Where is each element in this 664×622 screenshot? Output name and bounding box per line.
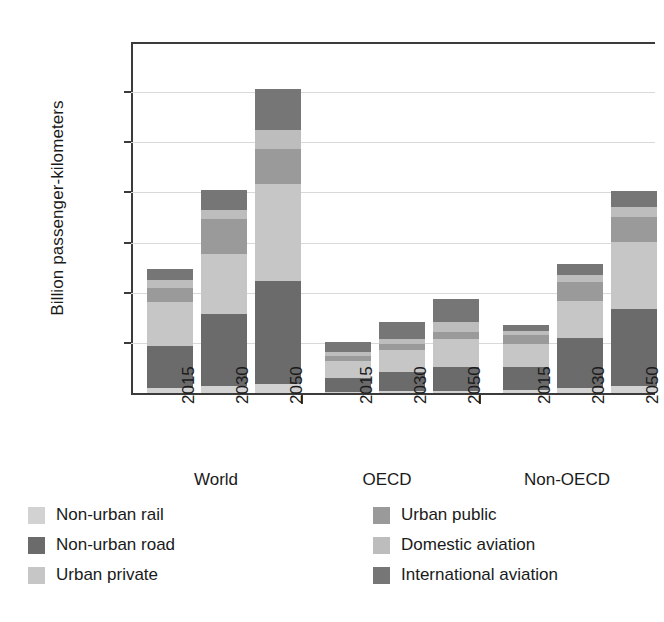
legend-item[interactable]: Urban private <box>28 560 175 590</box>
legend-column-left: Non-urban railNon-urban roadUrban privat… <box>28 500 175 590</box>
legend-swatch-icon <box>373 567 390 584</box>
bar-segment <box>611 217 657 242</box>
bar-segment <box>147 269 193 280</box>
x-tick-label-year: 2050 <box>465 340 485 404</box>
gridline <box>131 142 655 143</box>
bar-segment <box>255 89 301 130</box>
legend-swatch-icon <box>373 537 390 554</box>
legend-swatch-icon <box>28 507 45 524</box>
legend-item[interactable]: Non-urban road <box>28 530 175 560</box>
x-axis-group-label: Non-OECD <box>487 470 647 490</box>
bar-segment <box>201 210 247 219</box>
y-tick-mark <box>124 191 131 193</box>
y-axis-title: Billion passenger-kilometers <box>48 58 68 358</box>
gridline <box>131 92 655 93</box>
legend-label: Non-urban road <box>56 535 175 555</box>
bar-segment <box>557 282 603 301</box>
chart-figure: Billion passenger-kilometers 14000012000… <box>0 0 664 622</box>
legend-label: Non-urban rail <box>56 505 164 525</box>
x-tick-label-year: 2015 <box>535 340 555 404</box>
legend-label: Urban public <box>401 505 496 525</box>
x-tick-label-year: 2050 <box>287 340 307 404</box>
y-tick-mark <box>124 242 131 244</box>
x-tick-label-year: 2015 <box>179 340 199 404</box>
bar-segment <box>255 184 301 282</box>
bar-segment <box>557 264 603 275</box>
legend-label: International aviation <box>401 565 558 585</box>
x-tick-label-year: 2030 <box>233 340 253 404</box>
bar-segment <box>433 332 479 339</box>
y-tick-mark <box>124 141 131 143</box>
x-tick-label-year: 2030 <box>589 340 609 404</box>
bar-segment <box>201 219 247 254</box>
x-tick-label-year: 2015 <box>357 340 377 404</box>
x-tick-label-year: 2030 <box>411 340 431 404</box>
bar-segment <box>433 322 479 332</box>
x-tick-label-year: 2050 <box>643 340 663 404</box>
legend-column-right: Urban publicDomestic aviationInternation… <box>373 500 558 590</box>
legend-item[interactable]: Domestic aviation <box>373 530 558 560</box>
y-tick-mark <box>124 342 131 344</box>
legend-label: Urban private <box>56 565 158 585</box>
bar-segment <box>557 301 603 338</box>
x-axis-group-label: World <box>136 470 296 490</box>
legend-item[interactable]: Non-urban rail <box>28 500 175 530</box>
legend-item[interactable]: International aviation <box>373 560 558 590</box>
bar-segment <box>611 207 657 217</box>
bar-segment <box>433 299 479 322</box>
bar-segment <box>147 288 193 302</box>
plot-border-top <box>131 42 655 44</box>
legend-swatch-icon <box>28 567 45 584</box>
bar-segment <box>255 130 301 149</box>
bar-segment <box>147 280 193 288</box>
bar-segment <box>611 242 657 309</box>
legend-item[interactable]: Urban public <box>373 500 558 530</box>
y-tick-mark <box>124 292 131 294</box>
bar-segment <box>611 191 657 207</box>
x-axis-group-label: OECD <box>307 470 467 490</box>
bar-segment <box>201 254 247 314</box>
y-tick-mark <box>124 91 131 93</box>
plot-border-bottom <box>131 393 655 395</box>
bar-segment <box>201 190 247 210</box>
legend-swatch-icon <box>373 507 390 524</box>
legend-swatch-icon <box>28 537 45 554</box>
bar-segment <box>379 322 425 338</box>
bar-segment <box>255 149 301 184</box>
plot-area <box>131 42 655 395</box>
legend-label: Domestic aviation <box>401 535 535 555</box>
